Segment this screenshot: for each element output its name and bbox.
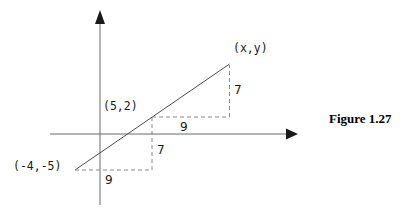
point-label-xy: (x,y) [233,41,268,55]
run-label-bottom: 9 [105,173,113,187]
coordinate-plane-graphic [0,0,410,219]
x-axis-arrowhead [286,129,298,140]
rise-label-top: 7 [234,83,242,97]
y-axis-arrowhead [95,10,105,24]
figure-caption: Figure 1.27 [329,111,392,127]
run-label-top: 9 [180,120,188,134]
figure-container: (x,y) (5,2) (-4,-5) 7 9 7 9 Figure 1.27 [0,0,410,219]
rise-label-bottom: 7 [157,143,165,157]
point-label-neg4-neg5: (-4,-5) [13,159,61,173]
point-label-5-2: (5,2) [103,99,138,113]
